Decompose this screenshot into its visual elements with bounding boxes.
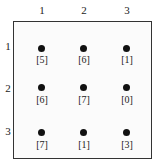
dot-r1-c3: [123, 45, 130, 52]
value-r3-c2: [1]: [74, 139, 94, 150]
dot-r2-c3: [123, 84, 130, 91]
dot-r1-c2: [80, 45, 87, 52]
value-r3-c1: [7]: [32, 139, 52, 150]
value-r3-c3: [3]: [117, 139, 137, 150]
value-r1-c2: [6]: [74, 54, 94, 65]
dot-r3-c1: [38, 129, 45, 136]
column-label-1: 1: [36, 4, 48, 16]
column-label-3: 3: [121, 4, 133, 16]
dot-r2-c2: [80, 84, 87, 91]
value-r1-c3: [1]: [117, 54, 137, 65]
dot-r3-c3: [123, 129, 130, 136]
row-label-3: 3: [4, 125, 12, 137]
value-r2-c2: [7]: [74, 94, 94, 105]
dot-r2-c1: [38, 84, 45, 91]
dot-r1-c1: [38, 45, 45, 52]
value-r2-c1: [6]: [32, 94, 52, 105]
value-r1-c1: [5]: [32, 54, 52, 65]
dot-r3-c2: [80, 129, 87, 136]
row-label-1: 1: [4, 40, 12, 52]
column-label-2: 2: [78, 4, 90, 16]
row-label-2: 2: [4, 82, 12, 94]
value-r2-c3: [0]: [117, 94, 137, 105]
